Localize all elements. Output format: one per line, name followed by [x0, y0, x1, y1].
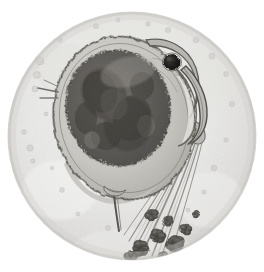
micrograph-stage: Black and white photomicrograph of a Dap… [0, 0, 264, 272]
daphnia-photomicrograph [0, 0, 264, 272]
